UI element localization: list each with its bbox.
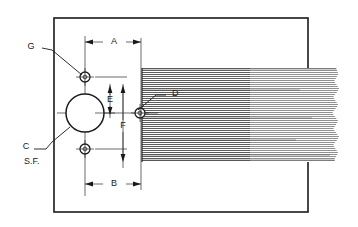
section-hatch-fade <box>250 68 342 162</box>
dim-a-label: A <box>111 36 117 46</box>
callout-sf: S.F. <box>24 156 40 166</box>
callout-g-label: G <box>27 41 34 51</box>
dim-b-label: B <box>111 178 117 188</box>
hatched-section-region <box>142 68 342 162</box>
engineering-drawing-canvas: A B E F G <box>0 0 358 227</box>
callout-d-label: D <box>172 88 179 98</box>
dim-e-label: E <box>107 94 113 104</box>
callout-sf-label: S.F. <box>24 156 40 166</box>
technical-drawing-viewport: A B E F G <box>0 0 358 227</box>
callout-c-label: C <box>23 141 30 151</box>
dim-f-label: F <box>120 120 126 130</box>
